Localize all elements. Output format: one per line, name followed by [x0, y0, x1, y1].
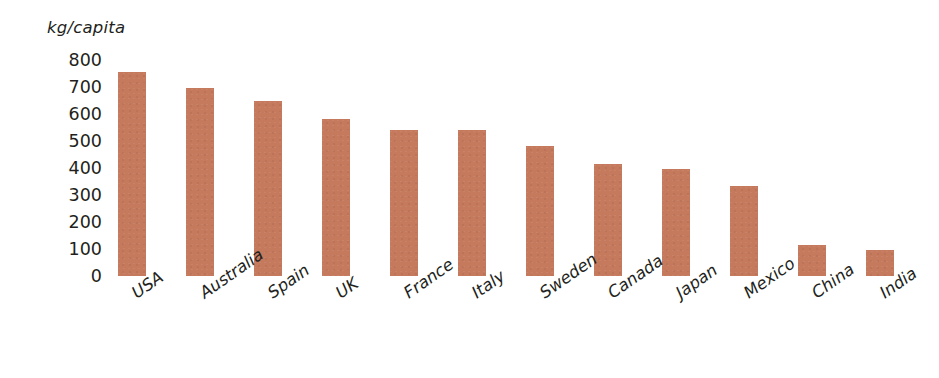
x-axis: USAAustraliaSpainUKFranceItalySwedenCana…: [104, 278, 924, 368]
x-axis-tick: Japan: [648, 278, 716, 368]
bar-slot: [580, 60, 648, 276]
bar[interactable]: [390, 130, 418, 276]
bar[interactable]: [730, 186, 758, 276]
bar-slot: [444, 60, 512, 276]
x-axis-tick: China: [784, 278, 852, 368]
x-axis-tick: UK: [308, 278, 376, 368]
x-axis-tick: Spain: [240, 278, 308, 368]
bar-slot: [784, 60, 852, 276]
y-axis-tick-label: 200: [40, 214, 102, 232]
bar[interactable]: [186, 88, 214, 276]
y-axis-tick-label: 700: [40, 79, 102, 97]
bar-slot: [240, 60, 308, 276]
x-axis-tick: Canada: [580, 278, 648, 368]
x-axis-tick-label: UK: [333, 274, 362, 302]
bar[interactable]: [594, 164, 622, 276]
bar[interactable]: [458, 130, 486, 276]
bar-slot: [172, 60, 240, 276]
x-axis-tick: Mexico: [716, 278, 784, 368]
bar-slot: [648, 60, 716, 276]
bar-slot: [512, 60, 580, 276]
y-axis-tick-label: 400: [40, 160, 102, 178]
y-axis-unit-label: kg/capita: [47, 18, 125, 37]
x-axis-tick: India: [852, 278, 920, 368]
x-axis-tick: Australia: [172, 278, 240, 368]
bar-slot: [716, 60, 784, 276]
x-axis-tick: France: [376, 278, 444, 368]
bar-slot: [852, 60, 920, 276]
x-axis-tick: Sweden: [512, 278, 580, 368]
y-axis-tick-label: 300: [40, 187, 102, 205]
bar[interactable]: [798, 245, 826, 276]
bar-chart: kg/capita 8007006005004003002001000 USAA…: [0, 0, 939, 378]
bar[interactable]: [322, 119, 350, 276]
bar[interactable]: [118, 72, 146, 276]
y-axis-tick-label: 500: [40, 133, 102, 151]
y-axis-tick-label: 0: [40, 268, 102, 286]
bar[interactable]: [526, 146, 554, 276]
bar-slot: [308, 60, 376, 276]
y-axis: 8007006005004003002001000: [40, 55, 102, 283]
x-axis-tick: Italy: [444, 278, 512, 368]
bar-slot: [376, 60, 444, 276]
bar[interactable]: [866, 250, 894, 276]
bar-slot: [104, 60, 172, 276]
plot-area: [104, 60, 924, 276]
y-axis-tick-label: 100: [40, 241, 102, 259]
x-axis-tick: USA: [104, 278, 172, 368]
bar[interactable]: [662, 169, 690, 276]
y-axis-tick-label: 600: [40, 106, 102, 124]
y-axis-tick-label: 800: [40, 52, 102, 70]
